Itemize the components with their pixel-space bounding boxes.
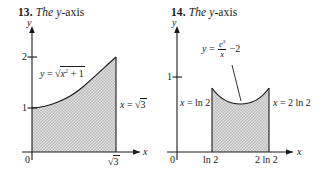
y-axis-label: y xyxy=(27,18,31,28)
y-tick-label-2: 2 xyxy=(22,52,27,62)
x-axis-label: x xyxy=(297,147,301,157)
boundary-label-x-sqrt3: x = √3 xyxy=(120,98,147,111)
y-tick-label-1: 1 xyxy=(167,72,172,82)
boundary-label-x-ln2: x = ln 2 xyxy=(180,98,210,108)
x-tick-label-sqrt3: √3 xyxy=(108,155,120,168)
problem-14: 14.The y-axis xyxy=(161,0,323,181)
x-tick-label-ln2: ln 2 xyxy=(203,155,218,165)
boundary-label-x-2ln2: x = 2 ln 2 xyxy=(273,98,311,108)
x-axis-arrowhead xyxy=(133,149,140,155)
x-axis-label: x xyxy=(143,147,147,157)
function-label-13: y = √x2 + 1 xyxy=(40,66,85,80)
problem-13: 13.The y-axis xyxy=(0,0,161,181)
x-tick-label-2ln2: 2 ln 2 xyxy=(255,155,278,165)
exercise-page: 13.The y-axis xyxy=(0,0,323,181)
leader-line xyxy=(232,65,241,101)
function-label-14: y = ex x −2 xyxy=(202,40,240,60)
y-tick-label-1: 1 xyxy=(22,103,27,113)
fraction-e-to-x-over-x: ex x xyxy=(218,39,226,59)
y-axis-label: y xyxy=(172,18,176,28)
x-tick-label-0: 0 xyxy=(25,155,30,165)
x-axis-arrowhead xyxy=(286,149,293,155)
x-tick-label-0: 0 xyxy=(170,155,175,165)
